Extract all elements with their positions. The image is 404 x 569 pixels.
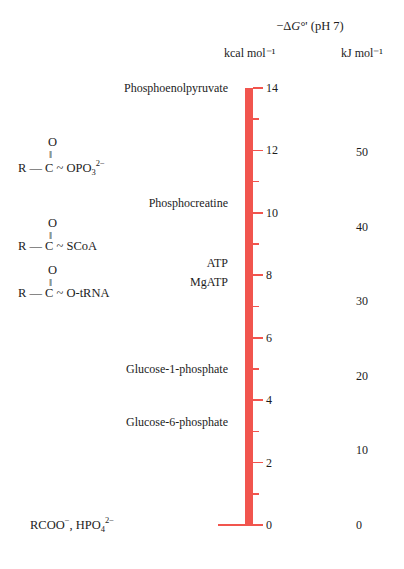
kcal-tick-2 (253, 462, 263, 464)
structure-double-bond: ‖ (18, 229, 97, 239)
kcal-tick-label-6: 6 (266, 332, 272, 344)
structure-formula: R — C ~ SCoA (18, 240, 97, 253)
structure-double-bond: ‖ (18, 276, 110, 286)
kcal-tick-11 (253, 181, 259, 183)
kcal-tick-label-14: 14 (266, 82, 278, 94)
kcal-unit-label: kcal mol⁻¹ (224, 46, 275, 61)
axis-title-suffix: °' (pH 7) (300, 19, 343, 33)
kcal-tick-3 (253, 431, 259, 433)
structure-formula: R — C ~ OPO32− (18, 160, 105, 178)
kj-unit-label: kJ mol⁻¹ (341, 46, 383, 61)
kcal-tick-9 (253, 243, 259, 245)
structure-carbonyl-oxygen: O (18, 136, 105, 149)
structure-acyl-phosphate: O‖R — C ~ OPO32− (18, 136, 105, 177)
structure-double-bond: ‖ (18, 149, 105, 159)
energy-scale-bar (245, 88, 253, 526)
kcal-tick-label-4: 4 (266, 394, 272, 406)
structure-carbonyl-oxygen: O (18, 263, 110, 276)
axis-title: −ΔG°' (pH 7) (250, 19, 370, 34)
structure-formula: R — C ~ O-tRNA (18, 287, 110, 300)
kcal-tick-4 (253, 399, 263, 401)
kcal-tick-label-2: 2 (266, 457, 272, 469)
compound-label-4: Glucose-1-phosphate (126, 363, 228, 375)
kcal-tick-0 (253, 524, 263, 526)
kj-tick-label-20: 20 (356, 370, 368, 382)
kcal-tick-label-10: 10 (266, 207, 278, 219)
kcal-tick-5 (253, 368, 259, 370)
axis-title-prefix: −Δ (276, 19, 291, 33)
kj-tick-label-50: 50 (356, 146, 368, 158)
kcal-tick-10 (253, 212, 263, 214)
kcal-tick-7 (253, 306, 259, 308)
compound-label-2: ATP (207, 257, 228, 269)
kj-tick-label-10: 10 (356, 444, 368, 456)
bottom-species-label: RCOO−, HPO42− (30, 516, 114, 533)
kcal-tick-label-0: 0 (266, 519, 272, 531)
kj-tick-label-40: 40 (356, 221, 368, 233)
structure-aminoacyl-trna: O‖R — C ~ O-tRNA (18, 263, 110, 300)
compound-label-1: Phosphocreatine (149, 197, 228, 209)
kj-tick-label-0: 0 (356, 519, 362, 531)
kj-tick-label-30: 30 (356, 295, 368, 307)
kcal-tick-label-8: 8 (266, 269, 272, 281)
kcal-tick-13 (253, 118, 259, 120)
energy-scale-figure: −ΔG°' (pH 7) kcal mol⁻¹ kJ mol⁻¹ 1412108… (0, 0, 404, 569)
structure-thioester: O‖R — C ~ SCoA (18, 216, 97, 253)
compound-label-5: Glucose-6-phosphate (126, 416, 228, 428)
kcal-tick-label-12: 12 (266, 144, 278, 156)
kcal-tick-12 (253, 150, 263, 152)
structure-carbonyl-oxygen: O (18, 216, 97, 229)
compound-label-3: MgATP (190, 276, 228, 288)
kcal-tick-8 (253, 274, 263, 276)
kcal-tick-1 (253, 493, 259, 495)
kcal-tick-6 (253, 337, 263, 339)
kcal-tick-14 (253, 87, 263, 89)
compound-label-0: Phosphoenolpyruvate (124, 82, 228, 94)
